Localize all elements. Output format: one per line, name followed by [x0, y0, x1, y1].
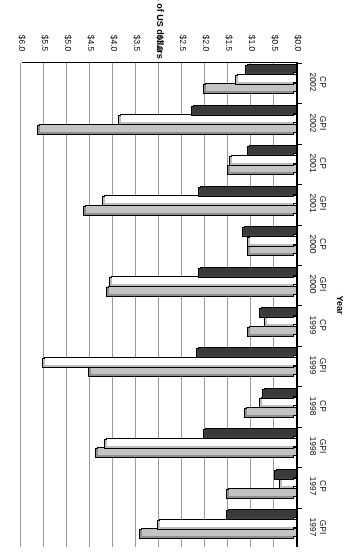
category-label-line: 1997: [308, 505, 318, 549]
bar-top-face: [259, 405, 294, 408]
category-tick: [297, 467, 302, 468]
bar-top-face: [242, 234, 294, 237]
bar-side-face: [227, 165, 230, 175]
bar-side-face: [106, 287, 109, 297]
bar-side-face: [226, 489, 229, 499]
category-label: GPI1999: [308, 343, 328, 387]
value-tick-label: $5.5: [40, 23, 50, 63]
bar-top-face: [37, 132, 294, 135]
value-tick-label: $1.5: [224, 23, 234, 63]
bar: [228, 509, 297, 518]
category-label-line: 1998: [308, 384, 318, 428]
bar-top-face: [247, 244, 294, 247]
bar-group: [22, 347, 297, 376]
bar-top-face: [264, 324, 294, 327]
bar-side-face: [203, 84, 206, 94]
bar-side-face: [37, 125, 40, 135]
bar-top-face: [247, 334, 294, 337]
bar-side-face: [244, 408, 247, 418]
bar-top-face: [229, 163, 294, 166]
category-tick: [297, 346, 302, 347]
bar-top-face: [196, 355, 294, 358]
bar-side-face: [262, 389, 265, 399]
bar: [200, 186, 297, 195]
value-tick-label: $0.0: [293, 23, 303, 63]
category-label: GPI2001: [308, 181, 328, 225]
bar-side-face: [109, 277, 112, 287]
bar-top-face: [139, 536, 294, 539]
bar-group: [22, 226, 297, 255]
category-label-line: 1999: [308, 303, 318, 347]
category-label-line: 2000: [308, 222, 318, 266]
bar-top-face: [227, 172, 294, 175]
category-label-line: CP: [318, 464, 328, 508]
bar-top-face: [104, 446, 294, 449]
bar: [244, 226, 297, 235]
bar-top-face: [203, 91, 294, 94]
bar-top-face: [42, 365, 294, 368]
bar-side-face: [247, 146, 250, 156]
plot-area: [22, 62, 298, 547]
category-label-line: 2001: [308, 141, 318, 185]
bar-group: [22, 266, 297, 295]
category-label-line: 1998: [308, 424, 318, 468]
category-label-line: 2001: [308, 181, 318, 225]
category-label-line: GPI: [318, 262, 328, 306]
gridline: [20, 63, 21, 547]
value-tick-label: $2.0: [201, 23, 211, 63]
bar-group: [22, 468, 297, 497]
bar-side-face: [247, 246, 250, 256]
bar-top-face: [109, 284, 294, 287]
category-label-line: GPI: [318, 101, 328, 145]
category-tick: [297, 508, 302, 509]
bar-top-face: [192, 113, 295, 116]
category-tick: [297, 265, 302, 266]
bar-top-face: [245, 72, 294, 75]
bar-side-face: [88, 367, 91, 377]
category-label: GPI1997: [308, 505, 328, 549]
category-label-line: CP: [318, 141, 328, 185]
bar: [264, 388, 297, 397]
bar-group: [22, 185, 297, 214]
value-tick-label: $4.5: [86, 23, 96, 63]
bar-top-face: [247, 253, 294, 256]
bar-side-face: [274, 470, 277, 480]
category-label-line: GPI: [318, 343, 328, 387]
bar-top-face: [244, 415, 294, 418]
bar-top-face: [198, 275, 294, 278]
bar-side-face: [42, 358, 45, 368]
bar-side-face: [279, 479, 282, 489]
bar-top-face: [157, 527, 294, 530]
bar-top-face: [226, 517, 294, 520]
category-label-line: 1999: [308, 343, 318, 387]
bar: [249, 145, 297, 154]
value-axis-title: Millions of US dollars: [155, 0, 165, 73]
category-tick: [297, 386, 302, 387]
category-tick: [297, 306, 302, 307]
value-tick-label: $5.0: [63, 23, 73, 63]
category-label-line: GPI: [318, 424, 328, 468]
bar-top-face: [95, 455, 294, 458]
category-label: GPI1998: [308, 424, 328, 468]
bar-side-face: [264, 317, 267, 327]
category-tick: [297, 144, 302, 145]
bar: [276, 469, 297, 478]
bar-top-face: [118, 122, 294, 125]
value-tick-label: $0.5: [270, 23, 280, 63]
bar-top-face: [262, 396, 294, 399]
value-tick-label: $4.0: [109, 23, 119, 63]
category-label: GPI2002: [308, 101, 328, 145]
bar-side-face: [259, 398, 262, 408]
bar-top-face: [259, 315, 294, 318]
category-label-line: GPI: [318, 505, 328, 549]
bar-side-face: [157, 520, 160, 530]
bar-side-face: [245, 65, 248, 75]
value-tick-label: $6.0: [17, 23, 27, 63]
category-label: CP1998: [308, 384, 328, 428]
bar: [261, 307, 297, 316]
bar-side-face: [242, 227, 245, 237]
category-label-line: CP: [318, 60, 328, 104]
value-tick-label: $2.5: [178, 23, 188, 63]
bar: [194, 105, 298, 114]
bar: [198, 347, 297, 356]
